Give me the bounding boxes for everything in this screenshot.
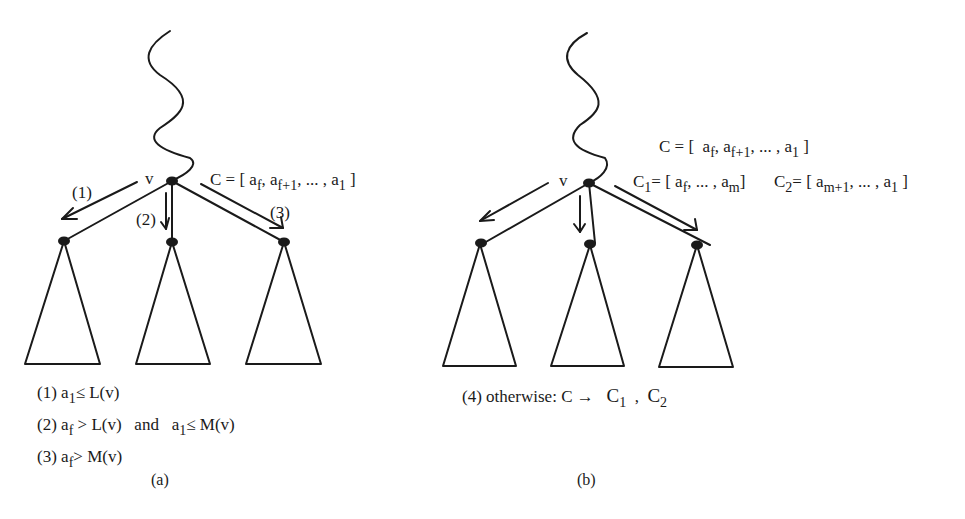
list-c2-name: C [774,172,785,191]
list-c2-sub: m+1 [824,180,850,195]
subtree-right-b [659,245,733,367]
node-label-v-a: v [145,170,154,187]
path-wavy-line-a [149,31,194,180]
caption-a: (a) [151,471,169,489]
subtree-middle-a [136,242,210,364]
condition-4: (4) otherwise: C → C1 , C2 [462,386,667,405]
condition-number: (4) [462,387,482,406]
list-label-c2-b: C2= [ am+1, ... , a1 ] [774,173,908,190]
list-c2-sub: 1 [891,180,898,195]
list-c-sub: f+1 [731,145,751,160]
list-c-part: ] [799,137,809,156]
condition-c2-sub: 2 [660,395,667,410]
condition-var: a [61,447,69,466]
condition-number: (3) [37,447,57,466]
list-c-sub: f+1 [278,178,298,193]
list-c-part: , a [262,170,278,189]
condition-2: (2) af > L(v) and a1≤ M(v) [37,416,235,433]
node-v-b [583,179,595,188]
arrow-label-2: (2) [136,211,156,228]
list-c1-name: C [633,172,644,191]
subtree-left-a [25,241,100,364]
node-child-left-b [475,239,487,248]
condition-number: (2) [37,415,57,434]
list-c2-part: = [ a [792,172,823,191]
node-child-middle-b [584,240,596,249]
arrow-left-b [480,183,548,221]
diagram-canvas [0,0,965,519]
arrow-label-1: (1) [72,184,92,201]
list-label-c-b: C = [ af, af+1, ... , a1 ] [659,138,809,155]
condition-relation: > M(v) [73,447,122,466]
list-c2-part: , ... , a [849,172,891,191]
list-c1-part: , ... , a [687,172,729,191]
subtree-middle-b [551,245,624,366]
condition-number: (1) [37,383,57,402]
node-child-right-a [278,238,290,247]
edge-left-b [484,183,589,243]
condition-sub: f [69,423,74,438]
list-c-part: a [249,170,257,189]
node-child-right-b [691,241,703,250]
list-c1-part: = [ a [651,172,682,191]
list-c-sub: 1 [339,178,346,193]
list-label-c1-b: C1= [ af, ... , am] [633,173,745,190]
list-c1-sub: m [729,180,740,195]
list-c-part: ] [346,170,356,189]
list-c1-part: ] [740,172,746,191]
condition-text: otherwise: C → [486,387,594,406]
condition-and: and [134,415,159,434]
condition-3: (3) af> M(v) [37,448,122,465]
subtree-right-a [246,242,321,364]
list-label-c-a: C = [ aC = [ af, af+1, ... , a1 ] [210,171,356,188]
node-child-left-a [58,237,70,246]
arrow-label-3: (3) [270,204,290,221]
condition-c1-sub: 1 [619,395,626,410]
list-c-part: , a [715,137,731,156]
condition-sub: 1 [69,391,76,406]
list-c-part: , ... , a [750,137,792,156]
list-c2-part: ] [898,172,908,191]
condition-relation: ≤ L(v) [76,383,120,402]
node-v-a [166,177,178,186]
condition-relation: ≤ M(v) [186,415,235,434]
condition-1: (1) a1≤ L(v) [37,384,119,401]
node-label-v-b: v [559,172,568,189]
condition-var: a [61,415,69,434]
list-c-sub: 1 [792,145,799,160]
caption-b: (b) [577,471,596,489]
edge-middle-b [589,183,595,243]
condition-var: a [61,383,69,402]
condition-separator: , [635,387,639,406]
path-wavy-line-b [567,33,607,183]
condition-c1: C [606,385,619,406]
condition-c2: C [647,385,660,406]
edge-right-a [172,181,284,242]
condition-relation: > L(v) [78,415,122,434]
node-child-middle-a [166,238,178,247]
subtree-left-b [443,244,516,366]
list-c-part: , ... , a [297,170,339,189]
list-c-part: a [703,137,711,156]
